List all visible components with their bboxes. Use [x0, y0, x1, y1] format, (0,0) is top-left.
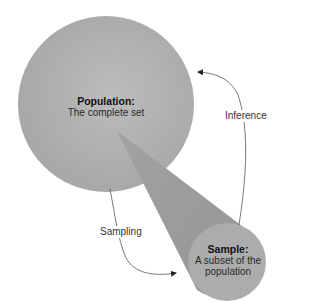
population-title: Population: — [46, 96, 166, 107]
sample-title: Sample: — [180, 244, 276, 255]
population-subtitle: The complete set — [46, 107, 166, 118]
inference-label: Inference — [224, 110, 268, 122]
sampling-label: Sampling — [99, 226, 143, 238]
sample-label: Sample: A subset of the population — [180, 244, 276, 277]
population-label: Population: The complete set — [46, 96, 166, 118]
sample-subtitle-line1: A subset of the — [180, 255, 276, 266]
sample-subtitle-line2: population — [180, 266, 276, 277]
